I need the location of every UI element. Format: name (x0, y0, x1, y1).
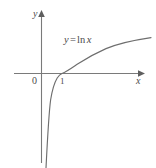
equation-argument: x (87, 34, 92, 45)
x-intercept-tick-label: 1 (60, 77, 65, 86)
equation-function-name: ln (77, 34, 86, 45)
equation-annotation: y=ln x (64, 35, 92, 46)
ln-x-graph-figure: y x 0 1 y=ln x (0, 0, 156, 168)
x-axis-label: x (136, 76, 140, 86)
y-axis-arrow-icon (38, 10, 45, 17)
origin-label: 0 (32, 76, 37, 86)
equation-operator: = (69, 34, 77, 45)
y-axis-label: y (33, 9, 37, 19)
natural-log-curve (46, 38, 151, 168)
graph-canvas (0, 0, 156, 168)
